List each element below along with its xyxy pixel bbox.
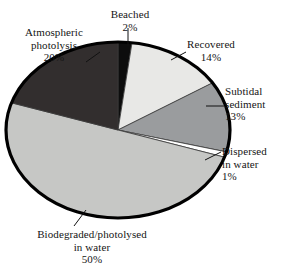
slice-label-percent: 13% <box>225 110 285 123</box>
slice-label-recovered: Recovered 14% <box>172 38 250 63</box>
slice-label-line: in water <box>222 158 284 171</box>
slice-label-dispersed-in-water: Dispersed in water 1% <box>222 145 284 183</box>
slice-label-percent: 2% <box>92 21 168 34</box>
pie-chart-figure: Atmospheric photolysis 20% Beached 2% Re… <box>0 0 288 275</box>
slice-label-line: Recovered <box>172 38 250 51</box>
slice-label-percent: 20% <box>6 51 102 64</box>
slice-label-percent: 50% <box>4 253 180 266</box>
slice-label-atmospheric-photolysis: Atmospheric photolysis 20% <box>6 26 102 64</box>
slice-label-line: in water <box>4 241 180 254</box>
slice-label-percent: 1% <box>222 170 284 183</box>
slice-label-line: Biodegraded/photolysed <box>4 228 180 241</box>
slice-label-percent: 14% <box>172 51 250 64</box>
slice-label-line: Subtidal <box>225 85 285 98</box>
slice-label-subtidal-sediment: Subtidal sediment 13% <box>225 85 285 123</box>
slice-label-line: Beached <box>92 8 168 21</box>
slice-label-line: sediment <box>225 98 285 111</box>
slice-label-line: photolysis <box>6 39 102 52</box>
slice-label-line: Atmospheric <box>6 26 102 39</box>
slice-label-beached: Beached 2% <box>92 8 168 33</box>
slice-label-biodegraded-photolysed-in-water: Biodegraded/photolysed in water 50% <box>4 228 180 266</box>
slice-label-line: Dispersed <box>222 145 284 158</box>
